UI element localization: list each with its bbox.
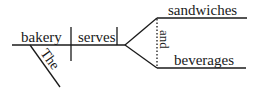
fork-upper-branch xyxy=(125,18,157,45)
object-word-upper: sandwiches xyxy=(168,2,237,18)
fork-lower-branch xyxy=(125,45,157,68)
modifier-word: The xyxy=(38,46,63,72)
sentence-diagram: bakery serves sandwiches beverages and T… xyxy=(0,0,264,92)
object-word-lower: beverages xyxy=(174,52,234,68)
verb-word: serves xyxy=(78,29,116,45)
conjunction-word: and xyxy=(157,30,172,49)
subject-word: bakery xyxy=(21,29,62,45)
